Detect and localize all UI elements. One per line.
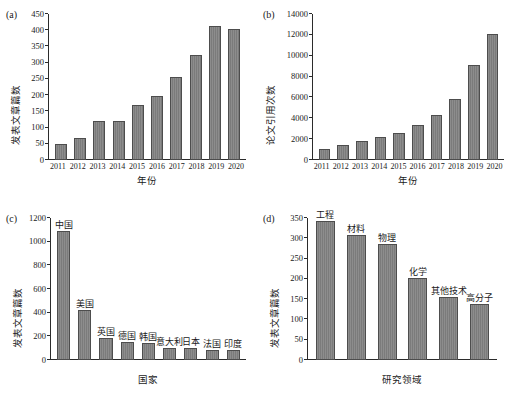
panel-c-ytick-label: 1200 bbox=[29, 214, 50, 223]
panel-c-bars: 中国美国英国德国韩国意大利日本法国印度 bbox=[50, 218, 246, 360]
bar-slot[interactable]: 高分子 bbox=[464, 218, 495, 360]
bar-slot[interactable] bbox=[483, 14, 502, 160]
bar-slot[interactable] bbox=[51, 14, 70, 160]
bar-slot[interactable] bbox=[90, 14, 109, 160]
bar-slot[interactable]: 美国 bbox=[74, 218, 95, 360]
bar-slot[interactable] bbox=[390, 14, 409, 160]
panel-a-ytick-label: 50 bbox=[36, 140, 49, 149]
bar[interactable] bbox=[184, 348, 197, 360]
bar[interactable] bbox=[55, 144, 67, 160]
bar[interactable] bbox=[74, 138, 86, 160]
panel-a-xtick-label: 2016 bbox=[149, 163, 165, 171]
panel-d-ytick-label: 50 bbox=[295, 335, 308, 344]
panel-d-bars: 工程材料物理化学其他技术高分子 bbox=[307, 218, 497, 360]
bar-slot[interactable] bbox=[225, 14, 244, 160]
bar-slot[interactable]: 化学 bbox=[402, 218, 433, 360]
bar-slot[interactable]: 德国 bbox=[117, 218, 138, 360]
bar-slot[interactable] bbox=[205, 14, 224, 160]
bar-value-label: 英国 bbox=[97, 328, 115, 337]
bar[interactable] bbox=[121, 342, 134, 360]
bar[interactable] bbox=[375, 137, 387, 160]
bar-slot[interactable]: 其他技术 bbox=[433, 218, 464, 360]
bar[interactable] bbox=[209, 26, 221, 160]
bar-slot[interactable] bbox=[352, 14, 371, 160]
panel-a-xtick-label: 2017 bbox=[169, 163, 185, 171]
panel-d-ytick-label: 250 bbox=[290, 254, 307, 263]
bar-slot[interactable] bbox=[315, 14, 334, 160]
bar-slot[interactable] bbox=[446, 14, 465, 160]
bar[interactable] bbox=[57, 231, 70, 360]
bar[interactable] bbox=[316, 221, 335, 360]
bar[interactable] bbox=[319, 149, 331, 160]
bar[interactable] bbox=[190, 55, 202, 160]
panel-d-ytick-label: 200 bbox=[290, 275, 307, 284]
panel-c-ytick-label: 0 bbox=[42, 356, 50, 365]
bar[interactable] bbox=[449, 99, 461, 160]
bar-slot[interactable]: 中国 bbox=[53, 218, 74, 360]
panel-c-ytick-label: 200 bbox=[33, 332, 50, 341]
bar[interactable] bbox=[412, 125, 424, 160]
bar[interactable] bbox=[113, 121, 125, 160]
bar-value-label: 化学 bbox=[409, 268, 427, 277]
bar-slot[interactable]: 英国 bbox=[95, 218, 116, 360]
bar[interactable] bbox=[431, 115, 443, 160]
bar-slot[interactable] bbox=[167, 14, 186, 160]
bar[interactable] bbox=[151, 96, 163, 160]
figure-four-panel-bar-charts: (a) 发表文章篇数 年份 05010015020025030035040045… bbox=[0, 0, 515, 400]
bar[interactable] bbox=[356, 141, 368, 160]
bar-value-label: 意大利 bbox=[156, 338, 183, 347]
bar-slot[interactable]: 日本 bbox=[180, 218, 201, 360]
bar[interactable] bbox=[170, 77, 182, 160]
panel-c-ytick-label: 800 bbox=[33, 261, 50, 270]
bar-slot[interactable] bbox=[128, 14, 147, 160]
bar-slot[interactable]: 意大利 bbox=[159, 218, 180, 360]
panel-c-ytick-mark bbox=[47, 241, 50, 242]
bar[interactable] bbox=[378, 244, 397, 360]
bar-slot[interactable] bbox=[409, 14, 428, 160]
bar[interactable] bbox=[99, 338, 112, 360]
bar[interactable] bbox=[93, 121, 105, 160]
bar[interactable] bbox=[227, 350, 240, 360]
bar-value-label: 材料 bbox=[347, 225, 365, 234]
panel-a-ytick-mark bbox=[45, 159, 48, 160]
panel-b-ytick-mark bbox=[309, 76, 312, 77]
panel-a-ytick-mark bbox=[45, 78, 48, 79]
bar[interactable] bbox=[439, 297, 458, 360]
panel-a-xtick-label: 2020 bbox=[228, 163, 244, 171]
bar-value-label: 中国 bbox=[55, 221, 73, 230]
bar[interactable] bbox=[163, 348, 176, 360]
bar[interactable] bbox=[142, 343, 155, 360]
bar-slot[interactable]: 印度 bbox=[223, 218, 244, 360]
bar-slot[interactable]: 物理 bbox=[372, 218, 403, 360]
bar[interactable] bbox=[337, 145, 349, 160]
bar-slot[interactable] bbox=[70, 14, 89, 160]
panel-a-xtick-label: 2019 bbox=[208, 163, 224, 171]
panel-b-ytick-label: 8000 bbox=[291, 72, 312, 81]
bar[interactable] bbox=[487, 34, 499, 160]
bar-slot[interactable] bbox=[186, 14, 205, 160]
panel-b-x-axis-label: 年份 bbox=[312, 177, 504, 187]
panel-a-ytick-label: 400 bbox=[31, 26, 48, 35]
panel-b-ytick-label: 0 bbox=[304, 156, 312, 165]
panel-a-xtick-label: 2015 bbox=[129, 163, 145, 171]
panel-a-ytick-label: 150 bbox=[31, 107, 48, 116]
bar[interactable] bbox=[393, 133, 405, 160]
bar-slot[interactable] bbox=[147, 14, 166, 160]
bar[interactable] bbox=[228, 29, 240, 160]
bar-slot[interactable] bbox=[371, 14, 390, 160]
bar-slot[interactable] bbox=[334, 14, 353, 160]
bar[interactable] bbox=[78, 310, 91, 360]
bar-slot[interactable]: 工程 bbox=[310, 218, 341, 360]
bar[interactable] bbox=[206, 350, 219, 360]
bar-slot[interactable] bbox=[465, 14, 484, 160]
bar-slot[interactable]: 法国 bbox=[202, 218, 223, 360]
bar[interactable] bbox=[408, 278, 427, 360]
bar-slot[interactable]: 材料 bbox=[341, 218, 372, 360]
bar-slot[interactable] bbox=[427, 14, 446, 160]
bar[interactable] bbox=[468, 65, 480, 160]
bar[interactable] bbox=[470, 304, 489, 360]
bar-slot[interactable] bbox=[109, 14, 128, 160]
bar[interactable] bbox=[132, 105, 144, 160]
panel-d-ytick-mark bbox=[304, 258, 307, 259]
bar[interactable] bbox=[347, 235, 366, 360]
